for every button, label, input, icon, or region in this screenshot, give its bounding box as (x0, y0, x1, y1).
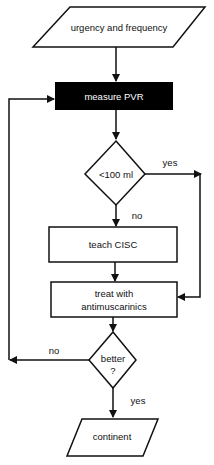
start-label: urgency and frequency (71, 22, 168, 33)
treat-label-line1: treat with (95, 288, 134, 299)
better-label-line1: better (101, 353, 125, 364)
arrow-loop-to-measure (9, 99, 54, 360)
arrow-yes-to-treat (178, 174, 200, 297)
no-label-1: no (132, 210, 143, 221)
continent-label: continent (93, 431, 132, 442)
teach-cisc-node: teach CISC (49, 227, 177, 262)
yes-label-1: yes (163, 157, 178, 168)
pvr-decision-node: <100 ml (85, 141, 145, 205)
yes-label-2: yes (131, 395, 146, 406)
no-label-2: no (49, 345, 60, 356)
treat-node: treat with antimuscarinics (51, 282, 177, 317)
measure-pvr-label: measure PVR (84, 91, 143, 102)
better-decision-node: better ? (89, 332, 136, 388)
pvr-decision-label: <100 ml (99, 169, 133, 180)
flowchart: urgency and frequency measure PVR <100 m… (0, 0, 214, 465)
treat-label-line2: antimuscarinics (81, 301, 147, 312)
measure-pvr-node: measure PVR (55, 82, 173, 110)
continent-node: continent (67, 419, 158, 456)
better-label-line2: ? (110, 365, 115, 376)
teach-cisc-label: teach CISC (89, 239, 138, 250)
start-node: urgency and frequency (33, 7, 205, 47)
